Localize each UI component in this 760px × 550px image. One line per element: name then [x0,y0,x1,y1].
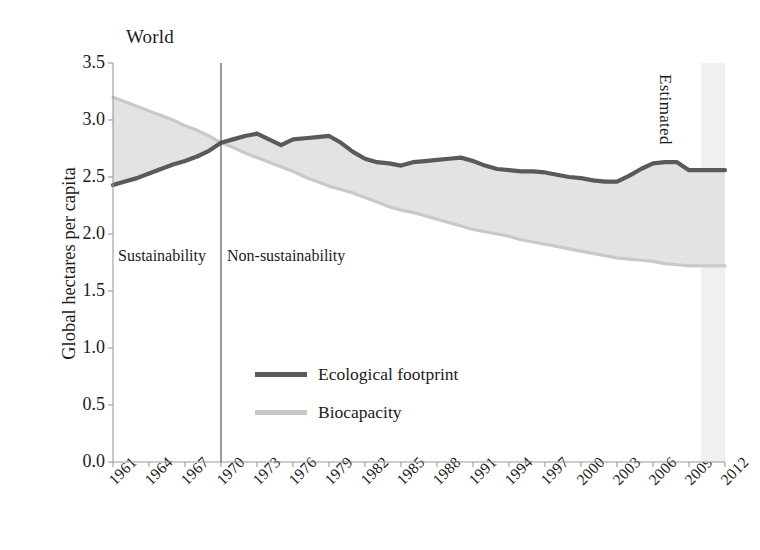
legend-swatch-biocapacity [255,410,307,415]
annotation-estimated: Estimated [655,74,675,145]
legend-swatch-footprint [255,372,307,377]
annotation-non-sustainability: Non-sustainability [227,247,345,265]
legend-label: Biocapacity [318,402,402,423]
plot-canvas [0,0,760,550]
series-band-fill [113,97,725,266]
chart-figure: World Global hectares per capita 3.53.02… [0,0,760,550]
annotation-sustainability: Sustainability [118,247,206,265]
legend-item: Ecological footprint [255,355,458,393]
legend-item: Biocapacity [255,393,458,431]
chart-legend: Ecological footprintBiocapacity [255,355,458,431]
legend-label: Ecological footprint [318,364,458,385]
